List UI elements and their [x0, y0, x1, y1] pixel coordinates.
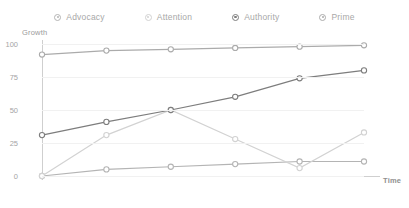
- ring-dot-icon: [54, 14, 61, 21]
- chart-legend: AdvocacyAttentionAuthorityPrime: [0, 9, 409, 25]
- legend-item-prime[interactable]: Prime: [319, 12, 354, 22]
- gridline: [42, 176, 364, 177]
- y-axis-tick-label: 100: [0, 40, 18, 49]
- ring-dot-icon: [232, 14, 239, 21]
- plot-area: 0255075100T1T2T3T4T5T6: [42, 44, 364, 176]
- data-point[interactable]: [104, 167, 109, 172]
- data-point[interactable]: [168, 47, 173, 52]
- data-point[interactable]: [297, 159, 302, 164]
- series-line: [42, 45, 364, 54]
- data-point[interactable]: [39, 52, 44, 57]
- data-point[interactable]: [39, 132, 44, 137]
- line-chart: AdvocacyAttentionAuthorityPrime Growth T…: [0, 0, 409, 208]
- data-point[interactable]: [233, 94, 238, 99]
- ring-dot-icon: [319, 14, 326, 21]
- y-axis-tick-label: 75: [0, 73, 18, 82]
- gridline: [42, 143, 364, 144]
- gridline: [42, 110, 364, 111]
- data-point[interactable]: [233, 162, 238, 167]
- data-point[interactable]: [104, 119, 109, 124]
- data-point[interactable]: [233, 45, 238, 50]
- data-point[interactable]: [104, 132, 109, 137]
- series-line: [42, 161, 364, 176]
- legend-label: Attention: [157, 12, 192, 22]
- legend-item-authority[interactable]: Authority: [232, 12, 279, 22]
- legend-item-advocacy[interactable]: Advocacy: [54, 12, 104, 22]
- y-axis-tick-label: 0: [0, 172, 18, 181]
- legend-item-attention[interactable]: Attention: [145, 12, 192, 22]
- data-point[interactable]: [168, 164, 173, 169]
- y-axis-title: Growth: [22, 28, 47, 37]
- y-axis-tick-label: 25: [0, 139, 18, 148]
- data-point[interactable]: [361, 159, 366, 164]
- data-point[interactable]: [361, 68, 366, 73]
- x-axis-title: Time: [383, 176, 401, 185]
- data-point[interactable]: [233, 136, 238, 141]
- data-point[interactable]: [104, 48, 109, 53]
- series-authority: [39, 68, 366, 138]
- legend-label: Authority: [244, 12, 279, 22]
- y-axis-tick-label: 50: [0, 106, 18, 115]
- legend-label: Prime: [331, 12, 354, 22]
- series-line: [42, 70, 364, 135]
- data-point[interactable]: [297, 165, 302, 170]
- ring-dot-icon: [145, 14, 152, 21]
- legend-label: Advocacy: [66, 12, 104, 22]
- gridline: [42, 77, 364, 78]
- data-point[interactable]: [361, 130, 366, 135]
- gridline: [42, 44, 364, 45]
